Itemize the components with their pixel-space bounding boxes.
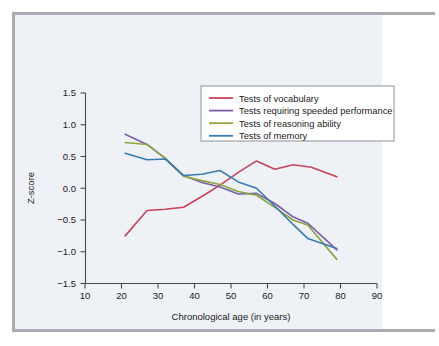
x-tick-label: 20 — [116, 290, 127, 301]
y-tick-label: 1.5 — [63, 87, 76, 98]
x-tick-label: 30 — [153, 290, 164, 301]
data-series-group — [125, 134, 337, 259]
x-axis-label: Chronological age (in years) — [172, 311, 291, 322]
y-tick-label: −1.0 — [57, 246, 76, 257]
x-tick-label: 60 — [262, 290, 273, 301]
x-tick-label: 90 — [372, 290, 383, 301]
legend-label-2: Tests of reasoning ability — [239, 119, 341, 129]
legend-label-1: Tests requiring speeded performance — [239, 106, 393, 116]
y-axis-ticks — [81, 93, 86, 284]
line-chart: 102030405060708090 −1.5−1.0−0.50.00.51.0… — [0, 0, 439, 346]
legend-label-3: Tests of memory — [239, 131, 308, 141]
y-tick-label: −1.5 — [57, 278, 76, 289]
x-tick-label: 10 — [80, 290, 91, 301]
y-tick-label: −0.5 — [57, 214, 76, 225]
chart-legend: Tests of vocabularyTests requiring speed… — [201, 86, 394, 141]
y-axis-label: Z-score — [25, 172, 36, 204]
legend-label-0: Tests of vocabulary — [239, 94, 319, 104]
x-axis-tick-labels: 102030405060708090 — [80, 290, 383, 301]
y-axis-tick-labels: −1.5−1.0−0.50.00.51.01.5 — [57, 87, 76, 289]
x-axis-ticks — [85, 284, 377, 289]
y-tick-label: 1.0 — [63, 119, 76, 130]
y-tick-label: 0.0 — [63, 183, 76, 194]
figure-container: 102030405060708090 −1.5−1.0−0.50.00.51.0… — [0, 0, 439, 346]
x-tick-label: 40 — [189, 290, 200, 301]
y-tick-label: 0.5 — [63, 151, 76, 162]
x-tick-label: 70 — [299, 290, 310, 301]
x-tick-label: 80 — [335, 290, 346, 301]
series-line-3 — [125, 153, 337, 248]
x-tick-label: 50 — [226, 290, 237, 301]
